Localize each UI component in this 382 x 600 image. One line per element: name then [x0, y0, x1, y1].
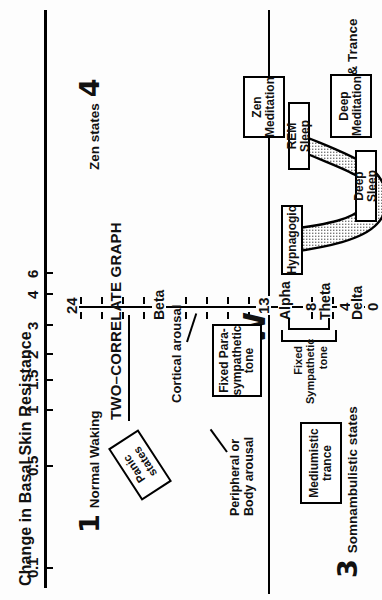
state-box-mediumistic-trance[interactable]: Mediumistic trance	[300, 422, 342, 504]
fixed-para-line3: tone	[243, 325, 256, 395]
sleep-cycle-band	[0, 0, 382, 600]
state-box-deep-sleep[interactable]: Deep Sleep	[355, 150, 377, 222]
rem-sleep-label: REM Sleep	[286, 106, 311, 166]
hypnagogic-label: Hypnagogic	[286, 206, 299, 275]
state-box-zen-meditation[interactable]: Zen Meditation	[243, 76, 285, 138]
mediumistic-line2: trance	[321, 428, 334, 497]
state-box-deep-meditation[interactable]: Deep Meditation	[330, 74, 372, 138]
state-box-rem-sleep[interactable]: REM Sleep	[288, 102, 310, 170]
fixed-para-line1: Fixed Para-	[218, 325, 231, 395]
zen-med-line2: Meditation	[264, 77, 277, 137]
fixed-sympathetic-bracket	[288, 318, 330, 330]
rotated-figure-stage: Change in Basal Skin Resistance 0.1 0.5 …	[0, 0, 382, 600]
deep-sleep-label: Deep Sleep	[353, 154, 378, 218]
figure-canvas: Change in Basal Skin Resistance 0.1 0.5 …	[0, 0, 382, 600]
deep-med-line2: Meditation	[351, 76, 364, 136]
fixed-symp-line1: Fixed	[292, 346, 304, 404]
state-box-hypnagogic[interactable]: Hypnagogic	[281, 205, 303, 275]
fixed-symp-line2: Sympathetic tone	[304, 346, 329, 404]
state-box-fixed-parasympathetic[interactable]: Fixed Para- sympathetic tone	[212, 324, 262, 397]
fixed-sympathetic-label: Fixed Sympathetic tone	[292, 346, 329, 404]
